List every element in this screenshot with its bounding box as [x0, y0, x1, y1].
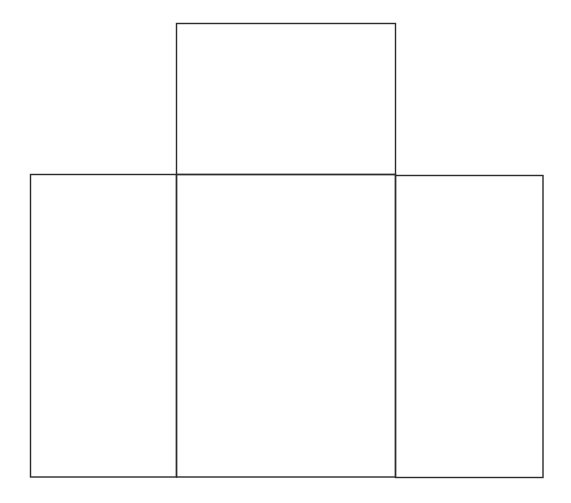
panel-group	[31, 24, 544, 478]
left-panel	[31, 175, 177, 478]
right-panel	[396, 176, 544, 478]
box-net-diagram	[0, 0, 571, 503]
center-panel	[177, 175, 396, 478]
top-panel	[177, 24, 396, 175]
